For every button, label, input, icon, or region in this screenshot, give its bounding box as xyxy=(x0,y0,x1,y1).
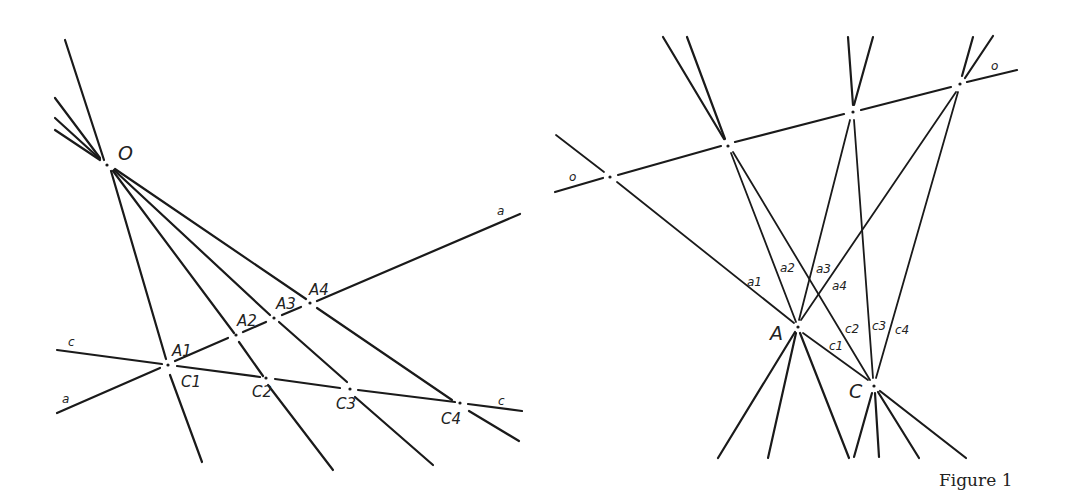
label-c-start: c xyxy=(68,335,75,349)
ray-stub xyxy=(965,36,993,78)
label-C: C xyxy=(849,380,863,402)
geometry-drawing: O a a c xyxy=(0,0,1076,497)
label-C3: C3 xyxy=(336,395,356,413)
label-c3: c3 xyxy=(872,319,886,333)
point-o2 xyxy=(726,144,729,147)
line-o xyxy=(735,114,844,142)
line-a xyxy=(317,214,520,301)
ray-a2 xyxy=(731,153,796,322)
ray-stub xyxy=(854,37,873,105)
point-C2 xyxy=(264,376,267,379)
ray-c3 xyxy=(854,120,873,378)
point-o1 xyxy=(608,175,611,178)
label-o-end: o xyxy=(991,59,998,73)
line-c xyxy=(57,350,162,364)
ray-O-A3 xyxy=(114,170,270,315)
ray-upper xyxy=(55,130,100,160)
label-C1: C1 xyxy=(181,373,201,391)
point-o4 xyxy=(958,82,961,85)
point-A1-C1 xyxy=(166,363,169,366)
line-a xyxy=(57,368,160,413)
right-figure: o o xyxy=(555,36,1017,458)
point-C xyxy=(872,384,875,387)
line-c xyxy=(275,379,340,388)
left-figure: O a a c xyxy=(55,40,522,470)
label-A3: A3 xyxy=(275,295,296,313)
label-a4: a4 xyxy=(832,279,847,293)
ray-c4 xyxy=(876,92,958,378)
ray-C4-ext xyxy=(469,411,519,441)
point-A4 xyxy=(308,301,311,304)
point-o3 xyxy=(851,110,854,113)
label-a1: a1 xyxy=(747,275,762,289)
ray-below-A xyxy=(718,332,795,458)
figure-caption: Figure 1 xyxy=(939,470,1012,490)
label-C4: C4 xyxy=(441,410,461,428)
ray-upper xyxy=(65,40,104,160)
ray-below-C xyxy=(878,392,919,458)
line-o xyxy=(861,87,951,110)
point-A2 xyxy=(234,333,237,336)
ray-A2-C2 xyxy=(239,342,263,376)
label-A4: A4 xyxy=(308,281,329,299)
ray-C3-ext xyxy=(355,397,433,465)
line-o xyxy=(618,146,721,175)
label-c4: c4 xyxy=(895,323,909,337)
label-A2: A2 xyxy=(236,312,257,330)
label-c-end: c xyxy=(498,394,505,408)
label-o-start: o xyxy=(569,170,576,184)
point-A xyxy=(796,325,799,328)
ray-c2 xyxy=(733,152,870,380)
ray-below-C xyxy=(875,393,879,457)
label-c2: c2 xyxy=(845,322,859,336)
label-c1: c1 xyxy=(829,339,843,353)
ray-below-C xyxy=(880,391,966,458)
label-a-end: a xyxy=(497,204,504,218)
ray-O-A2 xyxy=(113,171,234,333)
label-a-start: a xyxy=(62,392,69,406)
ray-A4-C4 xyxy=(317,308,452,400)
ray-a4 xyxy=(801,92,956,320)
line-o xyxy=(555,178,603,192)
ray-C2-ext xyxy=(268,385,333,470)
label-a2: a2 xyxy=(780,261,795,275)
ray-a1 xyxy=(617,182,794,323)
label-A: A xyxy=(768,322,783,344)
label-C2: C2 xyxy=(252,383,272,401)
ray-stub xyxy=(848,37,853,105)
point-A3 xyxy=(272,316,275,319)
ray-below-C xyxy=(854,393,872,457)
ray-A3-C3 xyxy=(279,322,347,382)
figure-1: O a a c xyxy=(0,0,1076,497)
label-a3: a3 xyxy=(816,262,831,276)
label-O: O xyxy=(118,142,133,164)
ray-a1 xyxy=(556,135,604,172)
point-C4 xyxy=(458,401,461,404)
line-c xyxy=(468,404,522,411)
label-A1: A1 xyxy=(171,342,192,360)
point-O xyxy=(105,163,108,166)
point-C3 xyxy=(348,387,351,390)
